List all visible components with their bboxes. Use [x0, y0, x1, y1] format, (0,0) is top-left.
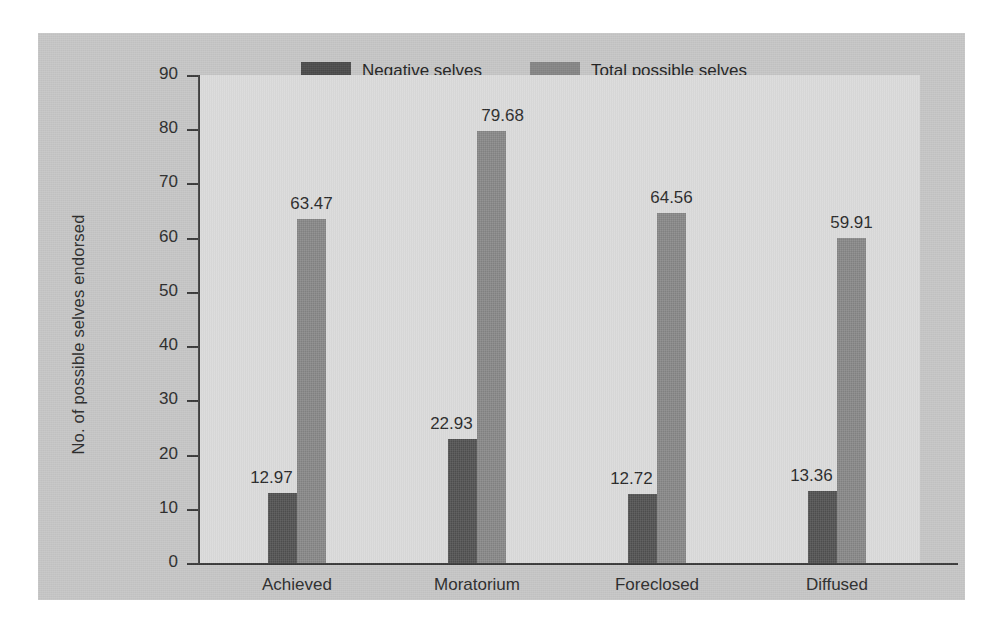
x-tick-label-achieved: Achieved [262, 575, 332, 595]
bar-negative-selves-moratorium: 22.93 [448, 439, 477, 563]
y-tick-label-50: 50 [159, 281, 178, 301]
y-tick-90: 90 [187, 75, 198, 77]
x-tick-label-diffused: Diffused [806, 575, 868, 595]
x-tick-label-foreclosed: Foreclosed [615, 575, 699, 595]
bar-value-total-possible-selves-foreclosed: 64.56 [650, 188, 693, 208]
y-tick-label-40: 40 [159, 335, 178, 355]
figure-panel: No. of possible selves endorsed Negative… [38, 33, 965, 600]
y-tick-40: 40 [187, 346, 198, 348]
y-tick-60: 60 [187, 238, 198, 240]
bar-value-negative-selves-moratorium: 22.93 [430, 414, 473, 434]
y-tick-label-20: 20 [159, 444, 178, 464]
x-axis-line [198, 563, 958, 565]
bar-value-negative-selves-achieved: 12.97 [250, 468, 293, 488]
bar-value-total-possible-selves-diffused: 59.91 [830, 213, 873, 233]
bar-total-possible-selves-moratorium: 79.68 [477, 131, 506, 563]
y-tick-label-60: 60 [159, 227, 178, 247]
y-tick-80: 80 [187, 129, 198, 131]
y-axis-title: No. of possible selves endorsed [69, 170, 88, 500]
y-tick-label-30: 30 [159, 389, 178, 409]
y-tick-label-90: 90 [159, 64, 178, 84]
bar-negative-selves-achieved: 12.97 [268, 493, 297, 563]
bar-negative-selves-diffused: 13.36 [808, 491, 837, 563]
bar-total-possible-selves-achieved: 63.47 [297, 219, 326, 563]
bar-value-total-possible-selves-achieved: 63.47 [290, 194, 333, 214]
y-tick-70: 70 [187, 183, 198, 185]
y-tick-label-0: 0 [169, 552, 178, 572]
y-tick-label-70: 70 [159, 172, 178, 192]
plot-area: 90 80 70 60 50 40 30 20 10 0 12.97 63.47… [198, 75, 920, 563]
y-tick-label-10: 10 [159, 498, 178, 518]
bar-negative-selves-foreclosed: 12.72 [628, 494, 657, 563]
y-tick-label-80: 80 [159, 118, 178, 138]
bar-total-possible-selves-diffused: 59.91 [837, 238, 866, 563]
bar-value-negative-selves-diffused: 13.36 [790, 466, 833, 486]
y-tick-20: 20 [187, 455, 198, 457]
bar-value-negative-selves-foreclosed: 12.72 [610, 469, 653, 489]
x-tick-label-moratorium: Moratorium [434, 575, 520, 595]
y-tick-10: 10 [187, 509, 198, 511]
y-tick-50: 50 [187, 292, 198, 294]
bar-total-possible-selves-foreclosed: 64.56 [657, 213, 686, 563]
y-axis-line [198, 75, 200, 563]
y-tick-30: 30 [187, 400, 198, 402]
bar-value-total-possible-selves-moratorium: 79.68 [481, 106, 524, 126]
y-tick-0: 0 [187, 563, 198, 565]
